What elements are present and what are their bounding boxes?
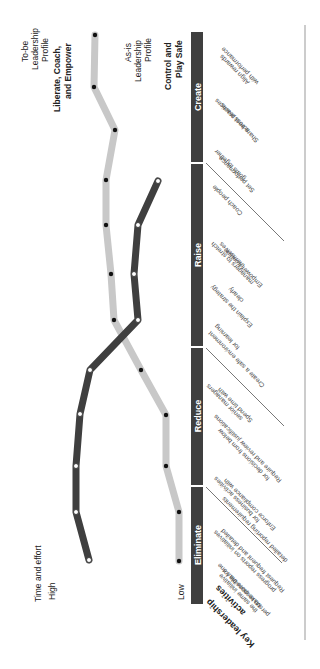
to-be-label-2: Leadership (30, 28, 40, 70)
category-label-raise: Raise (193, 243, 203, 267)
y-axis-title: Time and effort (33, 545, 43, 602)
activity-label: Create a safe environment (206, 330, 265, 389)
activity-label: Coach people (210, 183, 244, 217)
to-be-label-1: To-be (20, 40, 30, 62)
category-label-reduce: Reduce (193, 400, 203, 433)
as-is-label-2: Leadership (133, 40, 143, 82)
activity-label: goals together (212, 147, 247, 182)
category-bar (191, 32, 203, 604)
y-axis-low: Low (176, 584, 186, 600)
to-be-style-1: Liberate, Coach, (52, 46, 62, 112)
to-be-style-2: and Empower (63, 43, 73, 99)
category-label-create: Create (193, 83, 203, 111)
as-is-style-1: Control and (163, 42, 173, 90)
group-separator (206, 163, 284, 241)
as-is-label-1: As-is (123, 43, 133, 62)
as-is-style-2: Play Safe (174, 40, 184, 78)
activity-label: senior managers (204, 382, 244, 422)
category-label-eliminate: Eliminate (193, 525, 203, 565)
to-be-label-3: Profile (40, 38, 50, 62)
activity-label: across teams (218, 101, 251, 134)
leadership-profile-chart: Create Raise Reduce Eliminate To-be Lead… (0, 0, 320, 669)
activity-label: managers to stretch (209, 240, 256, 287)
as-is-label-3: Profile (143, 38, 153, 62)
activity-label: for decisions from below (216, 428, 271, 483)
y-axis-high: High (47, 582, 57, 600)
